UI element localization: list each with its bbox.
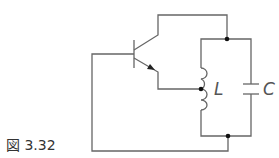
emitter-wire <box>134 58 201 89</box>
collector-wire <box>134 15 227 50</box>
inductor-label: L <box>214 79 223 99</box>
figure-caption: 図 3.32 <box>6 134 56 154</box>
capacitor-label: C <box>263 79 275 99</box>
node-bottom <box>226 134 231 139</box>
node-tap <box>199 87 204 92</box>
tank-top-rail <box>201 39 251 84</box>
node-top <box>225 37 230 42</box>
capacitor-lower-wire <box>201 94 251 136</box>
